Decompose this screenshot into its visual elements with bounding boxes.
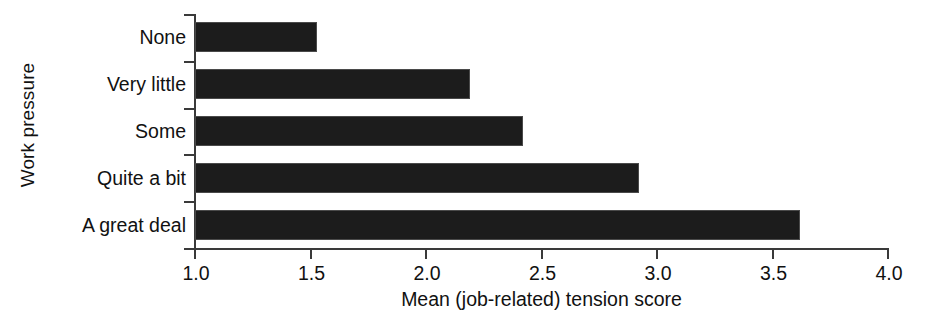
- y-axis-tick: [184, 108, 195, 110]
- bar: [195, 210, 800, 240]
- y-axis-tick-label: Quite a bit: [56, 168, 186, 188]
- x-axis-tick: [887, 250, 889, 259]
- x-axis-tick: [310, 250, 312, 259]
- x-axis-tick: [194, 250, 196, 259]
- plot-area: 1.01.52.02.53.03.54.0: [195, 14, 888, 248]
- y-axis-tick-label: Very little: [56, 74, 186, 94]
- x-axis-tick-label: 3.0: [618, 262, 698, 285]
- x-axis-tick: [656, 250, 658, 259]
- y-axis-tick: [184, 154, 195, 156]
- y-axis-tick-labels: NoneVery littleSomeQuite a bitA great de…: [56, 14, 186, 250]
- x-axis-tick-label: 1.0: [156, 262, 236, 285]
- x-axis-tick-label: 1.5: [272, 262, 352, 285]
- bar: [195, 22, 317, 52]
- bar-chart-figure: Work pressure NoneVery littleSomeQuite a…: [0, 0, 933, 331]
- bar: [195, 116, 523, 146]
- x-axis-tick: [425, 250, 427, 259]
- x-axis-tick-label: 2.0: [387, 262, 467, 285]
- x-axis-tick: [772, 250, 774, 259]
- y-axis-tick-label: Some: [56, 121, 186, 141]
- x-axis-tick: [541, 250, 543, 259]
- x-axis-tick-label: 2.5: [503, 262, 583, 285]
- bar: [195, 163, 639, 193]
- y-axis-tick: [184, 14, 195, 16]
- y-axis-tick: [184, 61, 195, 63]
- y-axis-tick: [184, 201, 195, 203]
- y-axis-title: Work pressure: [0, 0, 56, 250]
- x-axis-tick-label: 3.5: [734, 262, 814, 285]
- x-axis-tick-label: 4.0: [849, 262, 929, 285]
- bar: [195, 69, 470, 99]
- y-axis-tick-label: None: [56, 27, 186, 47]
- y-axis-tick-label: A great deal: [56, 215, 186, 235]
- x-axis-title: Mean (job-related) tension score: [195, 288, 888, 311]
- y-axis-title-text: Work pressure: [17, 63, 39, 188]
